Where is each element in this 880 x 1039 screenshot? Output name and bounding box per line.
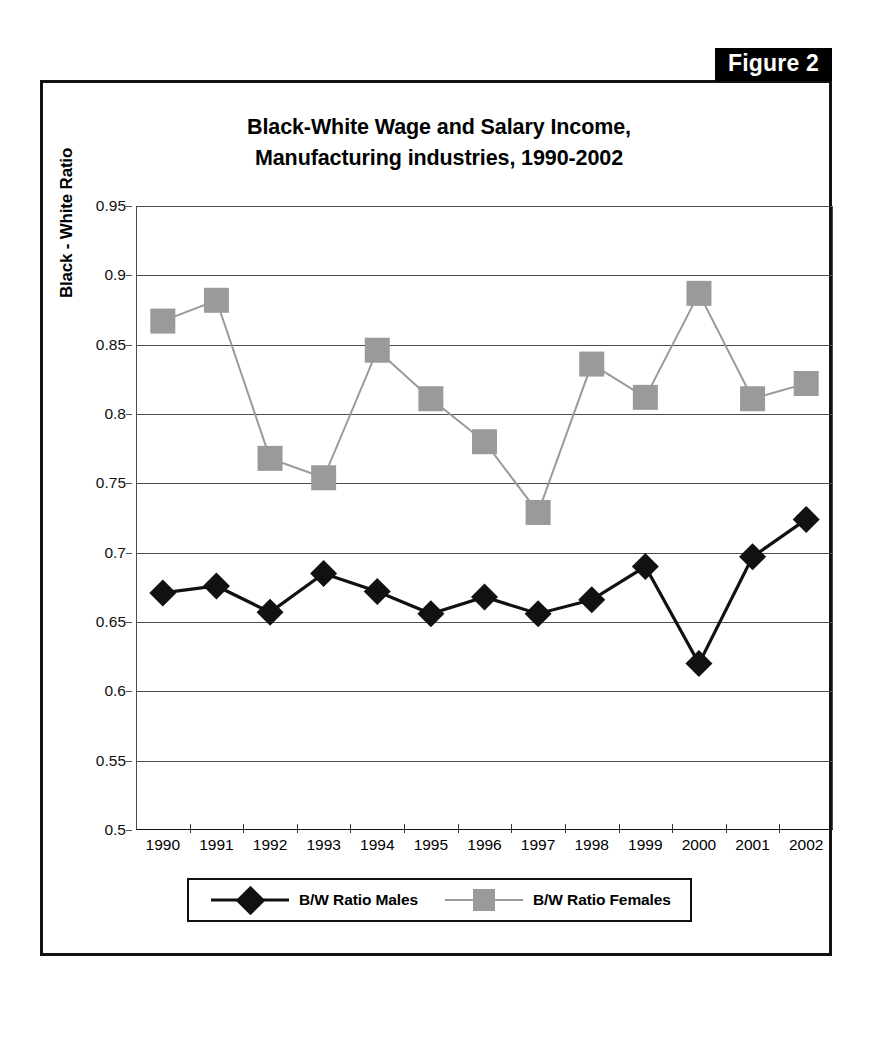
x-axis-tick-mark	[404, 824, 405, 833]
y-axis-tick-label: 0.9	[66, 266, 126, 284]
data-point-square	[258, 446, 283, 471]
data-point-square	[579, 352, 604, 377]
legend-swatch	[441, 885, 527, 915]
x-axis-tick-label: 1997	[521, 836, 555, 854]
x-axis-tick-mark	[243, 824, 244, 833]
y-axis-tick-mark	[126, 553, 132, 554]
x-axis-tick-mark	[511, 824, 512, 833]
y-axis-tick-label: 0.95	[66, 197, 126, 215]
y-axis-tick-label: 0.7	[66, 544, 126, 562]
x-axis-tick-label: 1996	[467, 836, 501, 854]
legend-swatch	[207, 885, 293, 915]
y-axis-tick-label: 0.85	[66, 336, 126, 354]
x-axis-tick-mark	[350, 824, 351, 833]
y-axis-tick-mark	[126, 761, 132, 762]
data-series-layer	[136, 206, 833, 830]
data-point-diamond	[310, 560, 337, 587]
x-axis-tick-mark	[190, 824, 191, 833]
y-axis-tick-label: 0.65	[66, 613, 126, 631]
data-point-diamond	[417, 600, 444, 627]
x-axis-tick-mark	[565, 824, 566, 833]
y-axis-tick-mark	[126, 483, 132, 484]
y-axis-tick-label: 0.6	[66, 682, 126, 700]
data-point-square	[204, 288, 229, 313]
data-point-square	[740, 386, 765, 411]
x-axis-tick-label: 2002	[789, 836, 823, 854]
chart-title-line-1: Black-White Wage and Salary Income,	[43, 112, 835, 143]
legend-square-icon	[473, 889, 495, 911]
series-line	[163, 293, 806, 512]
chart-legend: B/W Ratio MalesB/W Ratio Females	[187, 878, 692, 922]
data-point-square	[472, 429, 497, 454]
data-point-square	[794, 371, 819, 396]
series-females	[150, 281, 818, 525]
legend-diamond-icon	[235, 885, 265, 915]
y-axis-tick-mark	[126, 345, 132, 346]
x-axis-tick-label: 1991	[199, 836, 233, 854]
x-axis-tick-mark	[458, 824, 459, 833]
legend-entry: B/W Ratio Males	[207, 880, 418, 920]
data-point-diamond	[203, 572, 230, 599]
chart-title: Black-White Wage and Salary Income, Manu…	[43, 112, 835, 173]
x-axis-tick-mark	[726, 824, 727, 833]
data-point-diamond	[739, 543, 766, 570]
y-axis-tick-label: 0.5	[66, 821, 126, 839]
y-axis-tick-mark	[126, 691, 132, 692]
y-axis-tick-label: 0.75	[66, 474, 126, 492]
x-axis-tick-mark	[779, 824, 780, 833]
legend-entry: B/W Ratio Females	[441, 880, 671, 920]
data-point-diamond	[793, 506, 820, 533]
x-axis-tick-label: 2001	[735, 836, 769, 854]
x-axis-tick-mark	[619, 824, 620, 833]
data-point-square	[311, 465, 336, 490]
data-point-diamond	[632, 553, 659, 580]
data-point-diamond	[525, 600, 552, 627]
series-males	[149, 506, 819, 677]
x-axis-tick-label: 1994	[360, 836, 394, 854]
x-axis-tick-label: 1993	[306, 836, 340, 854]
figure-frame: Black-White Wage and Salary Income, Manu…	[40, 80, 832, 956]
y-axis-tick-mark	[126, 830, 132, 831]
data-point-diamond	[685, 650, 712, 677]
x-axis-tick-labels: 1990199119921993199419951996199719981999…	[136, 836, 833, 866]
x-axis-tick-label: 1995	[414, 836, 448, 854]
legend-label: B/W Ratio Females	[527, 891, 671, 909]
x-axis-tick-mark	[297, 824, 298, 833]
y-axis-tick-mark	[126, 622, 132, 623]
y-axis-tick-label: 0.55	[66, 752, 126, 770]
plot-area	[136, 206, 833, 830]
figure-number-label: Figure 2	[715, 48, 832, 81]
data-point-square	[633, 385, 658, 410]
data-point-diamond	[578, 586, 605, 613]
data-point-diamond	[364, 578, 391, 605]
x-axis-tick-label: 1999	[628, 836, 662, 854]
data-point-diamond	[257, 599, 284, 626]
chart-title-line-2: Manufacturing industries, 1990-2002	[43, 143, 835, 174]
page-running-header	[0, 0, 880, 14]
data-point-diamond	[471, 584, 498, 611]
y-axis-tick-labels: 0.950.90.850.80.750.70.650.60.550.5	[66, 206, 126, 830]
x-axis-tick-mark	[672, 824, 673, 833]
data-point-diamond	[149, 579, 176, 606]
data-point-square	[686, 281, 711, 306]
x-axis-tick-label: 1990	[146, 836, 180, 854]
x-axis-tick-label: 2000	[682, 836, 716, 854]
data-point-square	[365, 338, 390, 363]
y-axis-tick-mark	[126, 275, 132, 276]
y-axis-tick-mark	[126, 414, 132, 415]
y-axis-tick-mark	[126, 206, 132, 207]
data-point-square	[418, 386, 443, 411]
y-axis-tick-label: 0.8	[66, 405, 126, 423]
data-point-square	[526, 500, 551, 525]
x-axis-tick-label: 1992	[253, 836, 287, 854]
data-point-square	[150, 309, 175, 334]
legend-label: B/W Ratio Males	[293, 891, 418, 909]
x-axis-tick-label: 1998	[574, 836, 608, 854]
